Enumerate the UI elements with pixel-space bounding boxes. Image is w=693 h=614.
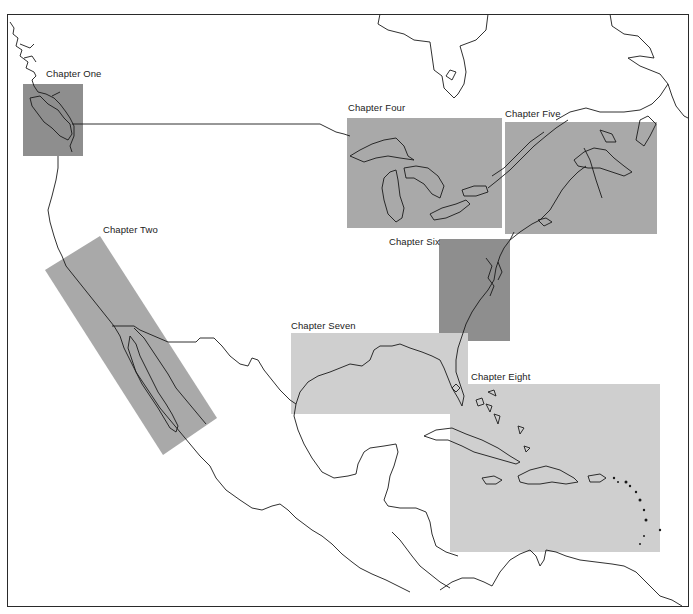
label-chapter-eight: Chapter Eight [471,371,530,382]
label-chapter-four: Chapter Four [348,102,405,113]
label-chapter-six: Chapter Six [389,236,440,247]
label-chapter-two: Chapter Two [103,224,158,235]
label-chapter-one: Chapter One [46,68,102,79]
label-chapter-seven: Chapter Seven [291,320,356,331]
label-chapter-five: Chapter Five [505,108,561,119]
chapter-region-map: Chapter One Chapter Two Chapter Four Cha… [0,0,693,614]
